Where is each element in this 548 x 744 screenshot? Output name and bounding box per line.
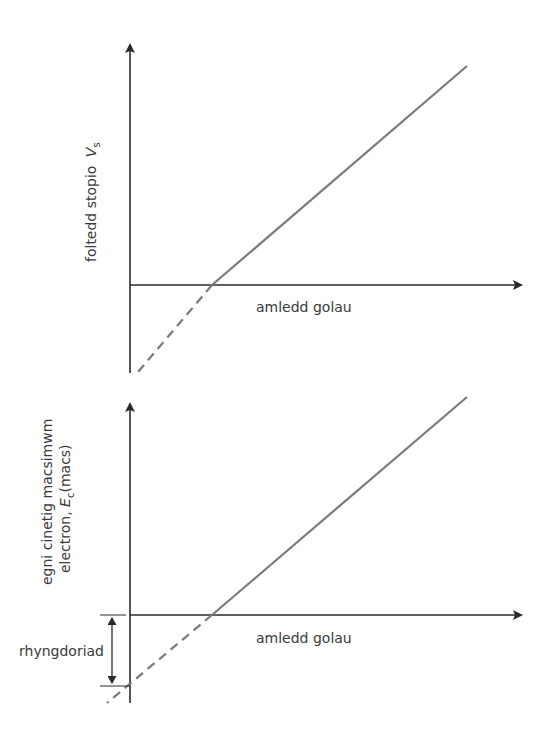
- svg-text:egni cinetig macsimwm: egni cinetig macsimwm: [39, 419, 55, 585]
- intercept-label: rhyngdoriad: [19, 643, 104, 659]
- top-solid-line: [212, 66, 467, 285]
- top-graph: amledd golau foltedd stopio Vs: [83, 45, 521, 373]
- svg-text:foltedd stopio Vs: foltedd stopio Vs: [83, 142, 102, 262]
- bottom-x-axis-label: amledd golau: [256, 630, 352, 646]
- top-y-axis-label: foltedd stopio Vs: [83, 142, 102, 262]
- intercept-bracket: [100, 615, 130, 686]
- top-x-axis-label: amledd golau: [256, 299, 352, 315]
- bottom-y-axis-label: egni cinetig macsimwm electron, Ec(macs): [39, 419, 76, 585]
- bottom-solid-line: [212, 397, 467, 615]
- diagram-canvas: amledd golau foltedd stopio Vs amledd go…: [0, 0, 548, 744]
- svg-text:electron, Ec(macs): electron, Ec(macs): [57, 444, 76, 573]
- bottom-dashed-extrapolation: [107, 615, 212, 703]
- bottom-graph: amledd golau rhyngdoriad egni cinetig ma…: [19, 397, 521, 703]
- top-dashed-extrapolation: [138, 285, 212, 372]
